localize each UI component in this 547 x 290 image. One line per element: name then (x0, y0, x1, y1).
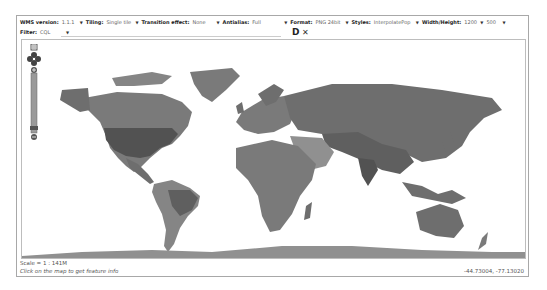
tiling-label: Tiling: (86, 19, 104, 25)
antialias-label: Antialias: (223, 19, 250, 25)
zoom-slider-handle[interactable] (30, 126, 38, 130)
pan-zoom-control (26, 44, 42, 144)
width-select[interactable]: 1200▼ (464, 19, 483, 25)
wms-version-select[interactable]: 1.1.1▼ (62, 19, 83, 25)
zoom-in-icon[interactable] (31, 67, 37, 73)
mouse-coordinates: -44.73004, -77.13020 (464, 268, 524, 274)
pan-control-icon[interactable] (27, 52, 41, 66)
chevron-down-icon: ▼ (284, 20, 287, 25)
layer-switcher-icon[interactable] (31, 44, 37, 50)
clear-filter-button[interactable]: ✕ (302, 28, 309, 37)
world-map (22, 40, 526, 259)
chevron-down-icon: ▼ (502, 20, 505, 25)
toolbar: WMS version: 1.1.1▼ Tiling: Single tile▼… (17, 16, 528, 38)
height-select[interactable]: 500▼ (486, 19, 505, 25)
antialias-select[interactable]: Full▼ (252, 19, 287, 25)
map-canvas[interactable] (21, 39, 526, 259)
chevron-down-icon: ▼ (135, 20, 138, 25)
chevron-down-icon: ▼ (345, 20, 348, 25)
styles-label: Styles: (352, 19, 371, 25)
filter-input[interactable] (61, 28, 281, 37)
apply-filter-button[interactable]: D (292, 27, 299, 37)
chevron-down-icon: ▼ (480, 20, 483, 25)
chevron-down-icon: ▼ (216, 20, 219, 25)
size-label: Width/Height: (422, 19, 461, 25)
zoom-slider-track[interactable] (31, 73, 37, 133)
map-preview-panel: WMS version: 1.1.1▼ Tiling: Single tile▼… (16, 15, 529, 277)
filter-label: Filter: (20, 29, 37, 35)
feature-info-hint: Click on the map to get feature info (20, 268, 118, 274)
transition-label: Transition effect: (142, 19, 190, 25)
zoom-out-icon[interactable] (31, 134, 37, 140)
format-select[interactable]: PNG 24bit▼ (315, 19, 348, 25)
format-label: Format: (290, 19, 312, 25)
chevron-down-icon: ▼ (80, 20, 83, 25)
scale-text: Scale = 1 : 141M (20, 260, 67, 266)
wms-version-label: WMS version: (20, 19, 59, 25)
toolbar-row-options: WMS version: 1.1.1▼ Tiling: Single tile▼… (20, 17, 508, 27)
chevron-down-icon: ▼ (416, 20, 419, 25)
tiling-select[interactable]: Single tile▼ (106, 19, 138, 25)
transition-select[interactable]: None▼ (192, 19, 219, 25)
styles-select[interactable]: InterpolatePop▼ (374, 19, 419, 25)
